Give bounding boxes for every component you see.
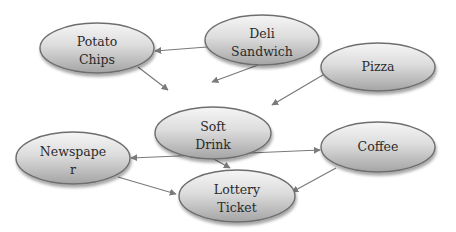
node-label-line1: Lottery [214, 182, 261, 197]
node-potato-chips: PotatoChips [40, 23, 154, 73]
node-label-line2: r [70, 162, 76, 177]
node-label-line1: Newspape [40, 144, 106, 159]
node-lottery-ticket: LotteryTicket [179, 170, 295, 222]
node-deli-sandwich: DeliSandwich [205, 15, 319, 65]
node-label-line1: Soft [200, 119, 226, 134]
node-label-line2: Drink [195, 137, 231, 152]
edge-newspaper-to-lottery-ticket [118, 177, 176, 194]
node-label-line1: Potato [77, 34, 117, 49]
node-label-line2: Ticket [217, 200, 256, 215]
edge-deli-sandwich-to-soft-drink [212, 65, 258, 82]
nodes-layer: PotatoChipsDeliSandwichPizzaSoftDrinkNew… [16, 15, 435, 222]
node-coffee: Coffee [321, 122, 435, 172]
node-label-line1: Deli [249, 26, 274, 41]
node-newspaper: Newspaper [16, 132, 130, 184]
diagram-canvas: PotatoChipsDeliSandwichPizzaSoftDrinkNew… [0, 0, 456, 232]
node-label-line1: Pizza [361, 59, 395, 74]
node-label-line2: Chips [79, 52, 115, 67]
edge-pizza-to-soft-drink [272, 72, 328, 105]
node-label-line2: Sandwich [231, 44, 293, 59]
node-pizza: Pizza [321, 43, 435, 91]
edge-deli-sandwich-to-potato-chips [155, 47, 207, 51]
edge-potato-chips-to-soft-drink [138, 67, 168, 90]
node-soft-drink: SoftDrink [155, 107, 271, 159]
edge-coffee-to-lottery-ticket [292, 168, 336, 192]
node-label-line1: Coffee [358, 139, 399, 154]
